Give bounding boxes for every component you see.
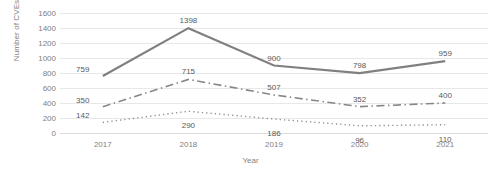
data-label: 959 — [439, 49, 452, 58]
data-label: 507 — [267, 83, 280, 92]
y-tick-label: 1600 — [20, 9, 56, 18]
data-label: 400 — [439, 91, 452, 100]
series-line-series-1 — [103, 28, 445, 76]
data-label: 186 — [267, 129, 280, 138]
y-tick-label: 1000 — [20, 54, 56, 63]
data-label: 759 — [76, 65, 89, 74]
x-tick-label: 2019 — [265, 140, 283, 149]
y-tick-label: 1400 — [20, 24, 56, 33]
data-label: 352 — [353, 95, 366, 104]
data-label: 715 — [182, 67, 195, 76]
y-tick-label: 200 — [20, 114, 56, 123]
y-tick-label: 800 — [20, 69, 56, 78]
data-label: 1398 — [179, 16, 197, 25]
y-tick-label: 600 — [20, 84, 56, 93]
x-tick-label: 2018 — [179, 140, 197, 149]
y-axis-tick-labels: 16001400120010008006004002000 — [20, 8, 56, 138]
x-axis-title: Year — [0, 156, 501, 165]
data-label: 350 — [76, 96, 89, 105]
line-chart: Number of CVEs 1600140012001000800600400… — [0, 0, 501, 176]
y-tick-label: 0 — [20, 129, 56, 138]
data-label: 798 — [353, 61, 366, 70]
series-layer — [60, 13, 488, 133]
x-axis-tick-labels: 20172018201920202021 — [60, 140, 488, 152]
data-label: 900 — [267, 54, 280, 63]
x-tick-label: 2017 — [94, 140, 112, 149]
data-label: 290 — [182, 121, 195, 130]
series-line-series-3 — [103, 111, 445, 126]
x-tick-label: 2020 — [351, 140, 369, 149]
x-tick-label: 2021 — [436, 140, 454, 149]
y-tick-label: 400 — [20, 99, 56, 108]
plot-area: 7591398900798959350715507352400142290186… — [60, 13, 488, 133]
data-label: 142 — [76, 111, 89, 120]
y-tick-label: 1200 — [20, 39, 56, 48]
